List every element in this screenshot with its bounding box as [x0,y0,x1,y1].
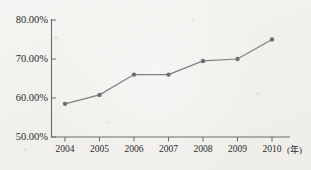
x-axis-tick-label: 2010 [254,145,290,155]
data-point-marker [63,102,67,106]
chart-container: 80.00%70.00%60.00%50.00% 200420052006200… [0,0,311,170]
y-axis-ticks [52,20,57,137]
y-axis-tick-label: 60.00% [2,93,48,104]
x-axis-tick-label: 2006 [116,145,152,155]
x-axis-unit-label: (年) [287,146,302,155]
x-axis-tick-label: 2008 [185,145,221,155]
data-series-line [65,40,272,104]
axis-lines [51,19,290,138]
x-axis-tick-label: 2009 [220,145,256,155]
data-point-marker [166,72,170,76]
x-axis-tick-label: 2005 [82,145,118,155]
x-axis-tick-label: 2004 [47,145,83,155]
data-point-marker [97,93,101,97]
data-point-marker [235,57,239,61]
x-axis-tick-label: 2007 [151,145,187,155]
x-axis-ticks [65,137,272,142]
y-axis-tick-label: 70.00% [2,54,48,65]
y-axis-tick-label: 50.00% [2,132,48,143]
y-axis-tick-label: 80.00% [2,15,48,26]
data-point-marker [201,59,205,63]
data-point-marker [270,37,274,41]
data-point-marker [132,72,136,76]
